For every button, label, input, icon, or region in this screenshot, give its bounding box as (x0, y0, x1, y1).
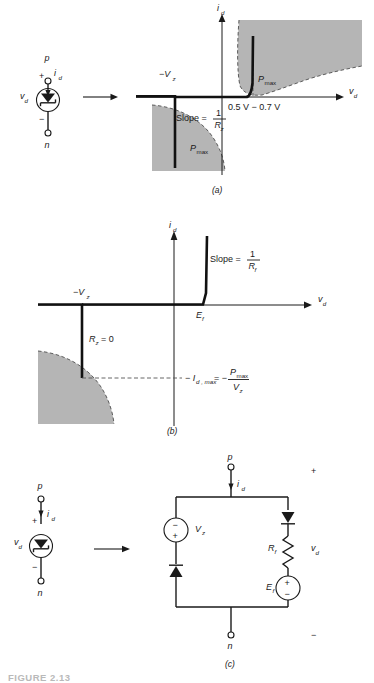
terminal-node-n-c (38, 578, 44, 584)
vz-top-sign: − (173, 520, 178, 530)
rz-label-sub: z (95, 339, 100, 346)
idmax-numerator: P (230, 367, 236, 377)
resistor-rf (283, 536, 293, 568)
forward-knee-label: 0.5 V − 0.7 V (228, 102, 280, 112)
forward-offset-sub: f (202, 315, 205, 322)
circuit-terminal-label-p: p (227, 452, 233, 462)
panel-c-diode-symbol: p i d + − n v d (14, 481, 56, 598)
panel-a-diode-symbol: p i d + − n v d (20, 53, 63, 150)
polarity-minus-c: − (32, 562, 37, 572)
breakdown-voltage-label: −V (159, 69, 171, 79)
x-axis-arrowhead (336, 94, 344, 101)
port-voltage-label-sub: d (316, 549, 320, 556)
figure-caption-code: FIGURE 2.13 (8, 672, 71, 683)
breakdown-voltage-label-b: −V (73, 287, 85, 297)
pmax-region-forward (238, 20, 362, 95)
panel-a-graph: v d i d −V z 0.5 V − 0.7 V Slope = 1 R z (136, 3, 362, 175)
voltage-label-vd-sub: d (25, 97, 29, 104)
rz-annotation: R z = 0 (89, 334, 114, 346)
panel-c-transform-arrow (94, 546, 130, 552)
ef-top-sign: + (285, 578, 290, 588)
diode-left-triangle (170, 566, 183, 577)
polarity-plus-c: + (32, 516, 37, 526)
polarity-plus: + (39, 71, 44, 81)
terminal-node-p-c (38, 496, 44, 502)
terminal-label-n-c: n (38, 588, 43, 598)
terminal-node-p (45, 78, 51, 84)
panel-b-graph: v d i d −V z E f Slope = 1 R f (38, 220, 327, 426)
x-axis-arrowhead-b (304, 302, 312, 309)
zener-triangle-c (34, 540, 48, 549)
pmax-label-forward: P (258, 74, 264, 84)
slope-numerator-b: 1 (250, 249, 255, 259)
figure-container: p i d + − n v d (0, 0, 374, 683)
idmax-lead: − I (185, 373, 196, 383)
iv-curve-forward-b (82, 236, 207, 305)
panel-c-equivalent-circuit: p i d − + V z (164, 452, 320, 651)
current-label-id-c: i (47, 509, 50, 519)
idmax-equals: = − (214, 373, 227, 383)
ef-bottom-sign: − (285, 589, 290, 599)
current-label-id-c-sub: d (52, 515, 56, 522)
circuit-current-label: i (237, 479, 240, 489)
y-axis-label-b-sub: d (173, 226, 177, 233)
idmax-denominator-sub: z (239, 387, 244, 394)
vz-label-sub: z (201, 529, 206, 536)
y-axis-label-b: i (169, 220, 172, 230)
breakdown-voltage-sub: z (172, 75, 177, 82)
rz-value: = 0 (101, 334, 114, 344)
pmax-region-reverse-b (38, 351, 114, 424)
idmax-annotation: − I d , max = − P max V z (185, 367, 249, 394)
terminal-node-n (45, 130, 51, 136)
port-minus-sign: − (311, 630, 316, 640)
terminal-label-p: p (44, 53, 50, 63)
panel-c: p i d + − n v d p (0, 452, 374, 683)
circuit-terminal-label-n: n (228, 641, 233, 651)
y-axis-label-sub: d (221, 9, 225, 16)
pmax-label-reverse: P (190, 143, 196, 153)
circuit-terminal-node-p (228, 464, 234, 470)
panel-a-transform-arrow (83, 94, 118, 100)
panel-b: v d i d −V z E f Slope = 1 R f (0, 218, 374, 440)
rf-label-sub: f (275, 548, 278, 555)
vz-bottom-sign: + (173, 531, 178, 541)
x-axis-label-sub: d (354, 92, 358, 99)
panel-b-caption: (b) (167, 426, 178, 436)
slope-denominator-sub: z (220, 125, 225, 132)
panel-c-caption: (c) (225, 659, 235, 669)
terminal-label-p-c: p (37, 481, 43, 491)
voltage-label-vd-c-sub: d (19, 543, 23, 550)
circuit-current-label-sub: d (242, 485, 246, 492)
breakdown-voltage-sub-b: z (86, 293, 91, 300)
panel-a-caption: (a) (212, 185, 223, 195)
slope-denominator-b-sub: f (255, 266, 258, 273)
slope-text: Slope = (176, 113, 207, 123)
x-axis-label-b-sub: d (323, 300, 327, 307)
vz-label: V (195, 524, 202, 534)
slope-annotation-b: Slope = 1 R f (210, 249, 260, 273)
terminal-label-n: n (45, 140, 50, 150)
y-axis-label: i (217, 3, 220, 13)
current-arrow-id-c (38, 511, 43, 518)
slope-numerator: 1 (216, 108, 221, 118)
circuit-terminal-node-n (228, 632, 234, 638)
slope-text-b: Slope = (210, 254, 241, 264)
current-label-id-sub: d (59, 74, 63, 81)
pmax-label-reverse-sub: max (197, 148, 210, 155)
panel-a: p i d + − n v d (0, 0, 374, 200)
zener-triangle (41, 94, 55, 103)
ef-label-sub: f (273, 587, 276, 594)
current-label-id: i (54, 68, 57, 78)
idmax-numerator-sub: max (237, 372, 250, 379)
port-plus-sign: + (311, 466, 316, 476)
pmax-label-forward-sub: max (265, 79, 278, 86)
circuit-current-arrow (228, 484, 233, 491)
polarity-minus: − (39, 114, 44, 124)
diode-right-triangle (282, 512, 295, 523)
